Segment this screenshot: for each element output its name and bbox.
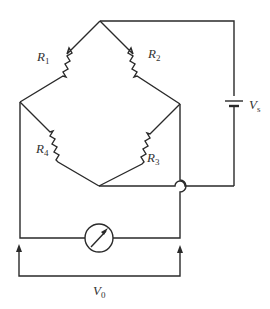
resistor-r4 xyxy=(20,102,99,186)
resistor-r1 xyxy=(20,21,100,102)
output-voltage-bracket xyxy=(16,244,183,276)
wire-bottom-to-source xyxy=(99,181,234,186)
label-r1: R1 xyxy=(36,49,49,66)
wheatstone-bridge-diagram: R1 R2 R4 R3 Vs V0 xyxy=(0,0,270,309)
wire-right-vertex-to-meter xyxy=(113,104,186,238)
label-r2: R2 xyxy=(147,46,160,63)
label-v0: V0 xyxy=(93,283,106,300)
wire-top-to-source xyxy=(100,21,234,96)
arrow-up-icon xyxy=(177,245,183,253)
wire-left-vertex-to-meter xyxy=(20,102,85,238)
voltage-source-battery xyxy=(225,101,243,186)
label-r4: R4 xyxy=(35,141,49,158)
resistor-r3 xyxy=(99,104,180,186)
label-vs: Vs xyxy=(249,97,261,114)
label-r3: R3 xyxy=(146,150,160,167)
arrow-up-icon xyxy=(16,244,22,252)
galvanometer-meter xyxy=(85,224,113,252)
resistor-r2 xyxy=(100,21,180,104)
